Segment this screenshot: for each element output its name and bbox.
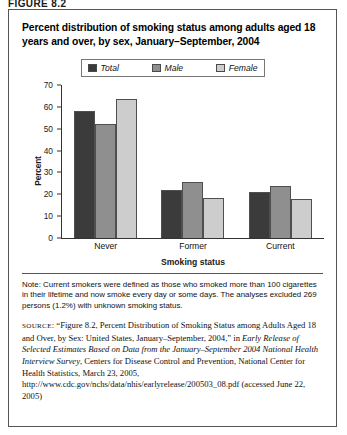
- bar-former-male: [182, 182, 203, 238]
- chart-legend: TotalMaleFemale: [81, 59, 265, 77]
- source-label: SOURCE: [22, 322, 52, 330]
- bars-container: [62, 85, 324, 238]
- bar-group-never: [62, 85, 149, 238]
- figure-panel: Percent distribution of smoking status a…: [8, 9, 337, 427]
- y-tick-label-20: 20: [44, 190, 53, 198]
- figure-label: FIGURE 8.2: [8, 0, 66, 9]
- x-tick-label-never: Never: [62, 241, 149, 251]
- bar-group-current: [237, 85, 324, 238]
- y-tick-label-10: 10: [44, 212, 53, 220]
- bar-current-total: [249, 192, 270, 238]
- bar-never-female: [116, 99, 137, 238]
- legend-swatch-total: [88, 64, 97, 72]
- legend-label-female: Female: [229, 63, 258, 73]
- chart-note: Note: Current smokers were defined as th…: [22, 280, 323, 311]
- y-tick-label-30: 30: [44, 168, 53, 176]
- bar-former-total: [161, 190, 182, 238]
- bar-never-total: [74, 111, 95, 238]
- bar-current-female: [291, 199, 312, 238]
- bar-current-male: [270, 186, 291, 238]
- chart-source: SOURCE: “Figure 8.2, Percent Distributio…: [22, 320, 323, 402]
- legend-label-male: Male: [165, 63, 184, 73]
- chart-title: Percent distribution of smoking status a…: [22, 21, 323, 48]
- divider: [22, 273, 323, 274]
- y-tick-label-0: 0: [48, 234, 53, 242]
- legend-item-total: Total: [88, 63, 119, 73]
- legend-item-female: Female: [216, 63, 258, 73]
- legend-label-total: Total: [101, 63, 119, 73]
- x-tick-label-current: Current: [237, 241, 324, 251]
- y-tick-label-70: 70: [44, 81, 53, 89]
- legend-item-male: Male: [152, 63, 184, 73]
- x-axis-title: Smoking status: [62, 257, 324, 267]
- y-axis-ticks: 010203040506070: [35, 85, 57, 238]
- y-tick-label-60: 60: [44, 103, 53, 111]
- plot-area: Percent 010203040506070 NeverFormerCurre…: [9, 85, 336, 257]
- y-tick-label-50: 50: [44, 125, 53, 133]
- x-tick-label-former: Former: [149, 241, 236, 251]
- legend-swatch-male: [152, 64, 161, 72]
- x-axis-line: [61, 238, 324, 239]
- y-tick-label-40: 40: [44, 147, 53, 155]
- legend-swatch-female: [216, 64, 225, 72]
- x-axis-tick-labels: NeverFormerCurrent: [62, 241, 324, 251]
- bar-group-former: [149, 85, 236, 238]
- bar-former-female: [203, 198, 224, 238]
- bar-never-male: [95, 124, 116, 238]
